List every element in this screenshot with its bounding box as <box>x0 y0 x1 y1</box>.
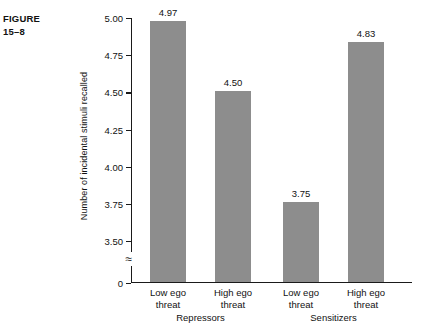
y-tick-mark <box>126 241 131 242</box>
y-tick-label: 5.00 <box>105 13 124 24</box>
axis-break-icon: ≈ <box>126 252 133 266</box>
x-category-label: High egothreat <box>214 287 252 310</box>
y-tick-mark <box>126 55 131 56</box>
y-tick-mark <box>126 18 131 19</box>
y-tick-label: 3.75 <box>105 198 124 209</box>
y-tick-label: 3.50 <box>105 236 124 247</box>
x-category-label-line: threat <box>347 299 385 311</box>
bar: 4.50 <box>215 91 251 282</box>
bar-value-label: 4.97 <box>159 7 178 18</box>
bar: 4.83 <box>348 42 384 282</box>
x-category-label-line: threat <box>214 299 252 311</box>
y-tick-mark <box>126 283 131 284</box>
bar-value-label: 4.50 <box>224 77 243 88</box>
y-tick-mark <box>126 167 131 168</box>
x-category-label-line: High ego <box>214 287 252 299</box>
x-axis-line <box>131 282 412 283</box>
x-category-label: Low egothreat <box>283 287 319 310</box>
y-tick-label: 4.00 <box>105 161 124 172</box>
y-tick-mark <box>126 130 131 131</box>
x-group-label: Sensitizers <box>310 312 356 323</box>
bar-chart: Number of incidental stimuli recalled 5.… <box>0 0 426 329</box>
x-category-label-line: threat <box>150 299 186 311</box>
y-tick-mark <box>126 92 131 93</box>
bar-value-label: 4.83 <box>357 28 376 39</box>
plot-area: 5.004.754.504.254.003.753.500 ≈ 4.974.50… <box>131 18 412 283</box>
y-tick-mark <box>126 204 131 205</box>
y-tick-label: 4.75 <box>105 50 124 61</box>
bar: 3.75 <box>283 202 319 281</box>
x-category-label: Low egothreat <box>150 287 186 310</box>
bar: 4.97 <box>150 21 186 282</box>
x-group-label: Repressors <box>176 312 225 323</box>
y-tick-label: 4.50 <box>105 87 124 98</box>
y-tick-label: 0 <box>118 278 123 289</box>
bar-value-label: 3.75 <box>292 188 311 199</box>
y-tick-label: 4.25 <box>105 124 124 135</box>
y-axis-line <box>131 18 132 283</box>
x-category-label-line: threat <box>283 299 319 311</box>
x-category-label-line: High ego <box>347 287 385 299</box>
x-category-label: High egothreat <box>347 287 385 310</box>
x-category-label-line: Low ego <box>283 287 319 299</box>
y-axis-title: Number of incidental stimuli recalled <box>79 72 89 220</box>
x-category-label-line: Low ego <box>150 287 186 299</box>
